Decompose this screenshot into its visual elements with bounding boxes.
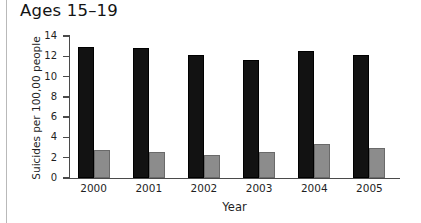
x-axis-tick-label: 2002 <box>181 182 227 194</box>
bar-series-1-2003 <box>243 60 259 178</box>
bar-series-1-2001 <box>133 48 149 178</box>
x-axis-line <box>69 178 400 179</box>
y-axis-tick-label: 14 <box>35 31 57 41</box>
y-axis-tick-label: 8 <box>35 92 57 102</box>
bar-series-2-2004 <box>314 144 330 178</box>
bar-series-2-2001 <box>149 152 165 178</box>
y-axis-tick-label: 12 <box>35 51 57 61</box>
bar-series-1-2005 <box>353 55 369 178</box>
bar-series-1-2004 <box>298 51 314 178</box>
y-axis-tick-label: 0 <box>35 173 57 183</box>
y-axis-tick <box>63 177 70 178</box>
x-axis-tick-label: 2001 <box>126 182 172 194</box>
y-axis-tick <box>63 137 70 138</box>
bar-series-1-2002 <box>188 55 204 178</box>
bar-series-2-2000 <box>94 150 110 178</box>
x-axis-tick-label: 2005 <box>346 182 392 194</box>
bar-series-1-2000 <box>78 47 94 178</box>
plot-area: 02468101214 200020012002200320042005 <box>0 0 421 223</box>
x-axis-tick-label: 2000 <box>71 182 117 194</box>
x-axis-tick-label: 2003 <box>236 182 282 194</box>
bar-series-2-2005 <box>369 148 385 178</box>
y-axis-tick <box>63 35 70 36</box>
y-axis-tick-label: 4 <box>35 132 57 142</box>
figure: Ages 15–19 Suicides per 100,00 people 02… <box>0 0 421 223</box>
y-axis-tick <box>63 96 70 97</box>
y-axis-tick-label: 6 <box>35 112 57 122</box>
y-axis-tick <box>63 116 70 117</box>
bar-series-2-2003 <box>259 152 275 178</box>
y-axis-tick <box>63 157 70 158</box>
y-axis-tick-label: 10 <box>35 72 57 82</box>
x-axis-tick-label: 2004 <box>291 182 337 194</box>
bar-series-2-2002 <box>204 155 220 178</box>
y-axis-tick-label: 2 <box>35 153 57 163</box>
y-axis-tick <box>63 76 70 77</box>
x-axis-label: Year <box>69 200 400 214</box>
y-axis-tick <box>63 56 70 57</box>
